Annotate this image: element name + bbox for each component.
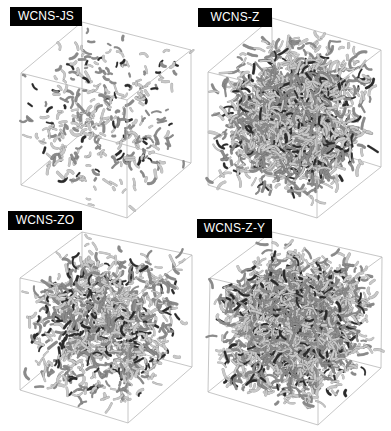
panel-wcns-z-y: WCNS-Z-Y	[0, 0, 391, 431]
vortex-tubes	[207, 240, 384, 408]
cube-edge	[318, 368, 381, 425]
panel-label-wcns-z-y: WCNS-Z-Y	[197, 219, 272, 238]
vortex-cube-wcns-z-y	[0, 0, 391, 431]
